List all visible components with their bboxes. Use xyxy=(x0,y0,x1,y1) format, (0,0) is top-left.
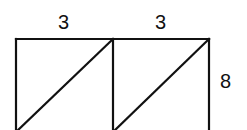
height-label: 8 xyxy=(220,70,231,92)
right-width-label: 3 xyxy=(155,11,166,33)
left-diagonal xyxy=(16,39,113,130)
left-width-label: 3 xyxy=(58,11,69,33)
right-diagonal xyxy=(113,39,209,130)
rectangles-diagram: 3 3 8 xyxy=(0,0,247,130)
